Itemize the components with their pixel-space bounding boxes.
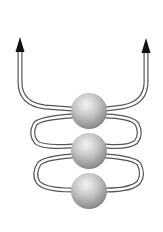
- sphere-bottom: [71, 173, 107, 209]
- sphere-top: [71, 93, 107, 129]
- left-arrow-icon: [16, 37, 25, 52]
- sphere-middle: [71, 133, 107, 169]
- sphere-chain-diagram: [0, 0, 163, 232]
- right-arrow-icon: [142, 38, 151, 53]
